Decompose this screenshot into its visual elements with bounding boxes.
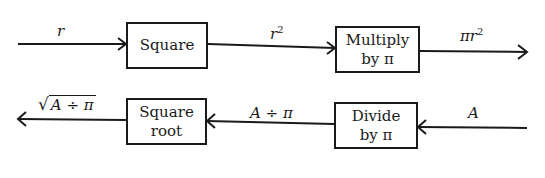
divide-by-pi-box: Divide by π	[334, 102, 418, 149]
radical-sign: √	[38, 94, 49, 114]
multiply-box-line2: by π	[361, 50, 394, 69]
sqrt-box-line2: root	[151, 122, 182, 141]
divide-box-line2: by π	[360, 126, 393, 145]
arrow-sqrt-output	[18, 119, 126, 120]
arrow-a-to-divide	[418, 127, 527, 128]
r-squared-exp: 2	[277, 24, 283, 35]
sqrt-box-line1: Square	[139, 103, 194, 122]
square-box: Square	[126, 22, 208, 69]
sqrt-output-label: √A ÷ π	[38, 94, 96, 114]
pi-r-squared-exp: 2	[477, 26, 483, 37]
square-root-box: Square root	[126, 98, 207, 145]
multiply-by-pi-box: Multiply by π	[335, 26, 420, 73]
pi-r-squared-base: πr	[460, 27, 477, 45]
pi-r-squared-label: πr2	[460, 26, 483, 45]
arrow-square-to-multiply	[208, 44, 335, 48]
multiply-box-line1: Multiply	[346, 31, 410, 50]
input-a-label: A	[468, 104, 479, 122]
a-div-pi-label: A ÷ π	[250, 104, 293, 122]
square-box-label: Square	[140, 36, 195, 55]
arrow-multiply-output	[420, 51, 527, 52]
divide-box-line1: Divide	[352, 107, 401, 126]
r-squared-label: r2	[270, 24, 284, 43]
input-r-label: r	[57, 22, 64, 40]
radicand: A ÷ π	[49, 95, 96, 114]
